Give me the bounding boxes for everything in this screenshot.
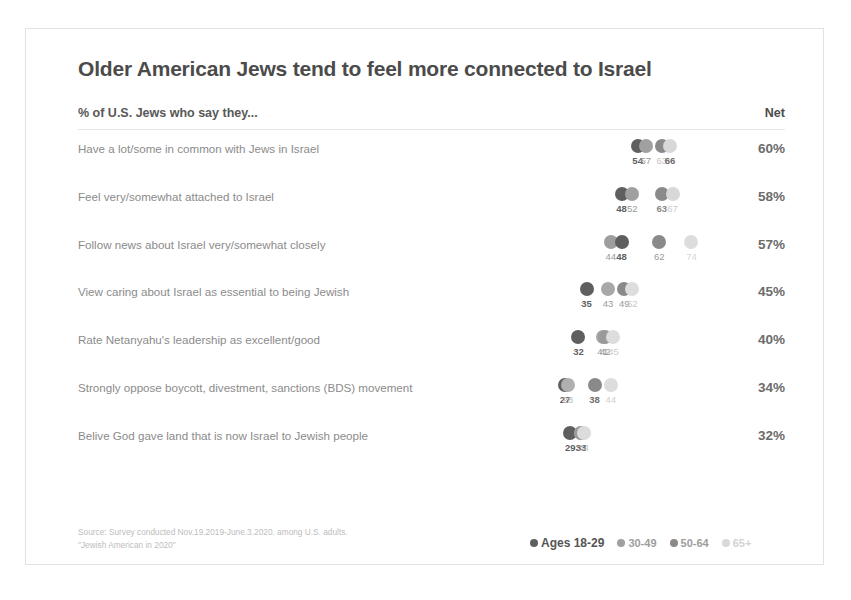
page-title: Older American Jews tend to feel more co… bbox=[78, 51, 785, 81]
row-plot: 32414245 bbox=[530, 322, 713, 370]
row-label: Have a lot/some in common with Jews in I… bbox=[78, 142, 319, 155]
data-point-30-49 bbox=[639, 139, 653, 153]
data-point-label: 35 bbox=[581, 298, 592, 309]
data-point-label: 74 bbox=[686, 251, 697, 262]
data-point-50-64 bbox=[652, 235, 666, 249]
chart-inner: Older American Jews tend to feel more co… bbox=[78, 51, 785, 554]
row-plot: 27283844 bbox=[530, 370, 713, 418]
chart-row: Rate Netanyahu's leadership as excellent… bbox=[78, 322, 785, 370]
subheader-label: % of U.S. Jews who say they... bbox=[78, 106, 258, 120]
row-label: View caring about Israel as essential to… bbox=[78, 285, 349, 298]
row-plot: 29333334 bbox=[530, 418, 713, 466]
data-point-label: 32 bbox=[573, 346, 584, 357]
source-note-line1: Source: Survey conducted Nov.19.2019-Jun… bbox=[78, 526, 348, 539]
row-label: Feel very/somewhat attached to Israel bbox=[78, 190, 274, 203]
data-point-30-49 bbox=[625, 187, 639, 201]
data-point-label: 38 bbox=[589, 394, 600, 405]
legend-item[interactable]: 65+ bbox=[722, 537, 752, 549]
chart-row: View caring about Israel as essential to… bbox=[78, 274, 785, 322]
row-label: Rate Netanyahu's leadership as excellent… bbox=[78, 333, 320, 346]
row-plot: 48526367 bbox=[530, 179, 713, 227]
subheader-row: % of U.S. Jews who say they... Net bbox=[78, 106, 785, 129]
legend-swatch-icon bbox=[617, 539, 625, 547]
row-net-value: 32% bbox=[729, 428, 785, 443]
row-label: Belive God gave land that is now Israel … bbox=[78, 429, 368, 442]
net-column-header: Net bbox=[729, 106, 785, 120]
chart-row: Feel very/somewhat attached to Israel485… bbox=[78, 179, 785, 227]
data-point-label: 66 bbox=[665, 155, 676, 166]
legend-item[interactable]: 50-64 bbox=[670, 537, 709, 549]
data-point-label: 48 bbox=[616, 203, 627, 214]
chart-legend: Ages 18-2930-4950-6465+ bbox=[530, 536, 751, 550]
data-point-label: 28 bbox=[562, 394, 573, 405]
data-point-label: 57 bbox=[640, 155, 651, 166]
chart-rows: Have a lot/some in common with Jews in I… bbox=[78, 131, 785, 466]
data-point-label: 34 bbox=[579, 442, 590, 453]
row-plot: 54576366 bbox=[530, 131, 713, 179]
source-note-line2: "Jewish American in 2020" bbox=[78, 539, 348, 552]
data-point-label: 29 bbox=[565, 442, 576, 453]
data-point-label: 44 bbox=[605, 251, 616, 262]
row-net-value: 40% bbox=[729, 332, 785, 347]
row-label: Strongly oppose boycott, divestment, san… bbox=[78, 381, 412, 394]
data-point-65- bbox=[684, 235, 698, 249]
legend-item[interactable]: Ages 18-29 bbox=[530, 536, 604, 550]
row-label: Follow news about Israel very/somewhat c… bbox=[78, 238, 325, 251]
data-point-50-64 bbox=[588, 378, 602, 392]
data-point-65- bbox=[663, 139, 677, 153]
chart-card: Older American Jews tend to feel more co… bbox=[25, 28, 824, 565]
source-note: Source: Survey conducted Nov.19.2019-Jun… bbox=[78, 526, 348, 552]
data-point-65- bbox=[666, 187, 680, 201]
row-plot: 44486274 bbox=[530, 227, 713, 275]
row-net-value: 34% bbox=[729, 380, 785, 395]
data-point-label: 62 bbox=[654, 251, 665, 262]
data-point-30-49 bbox=[561, 378, 575, 392]
data-point-65- bbox=[577, 426, 591, 440]
legend-label: 50-64 bbox=[681, 537, 709, 549]
data-point-label: 44 bbox=[605, 394, 616, 405]
data-point-65- bbox=[604, 378, 618, 392]
data-point-label: 43 bbox=[603, 298, 614, 309]
legend-swatch-icon bbox=[670, 539, 678, 547]
data-point-30-49 bbox=[601, 282, 615, 296]
data-point-label: 45 bbox=[608, 346, 619, 357]
data-point-65- bbox=[606, 330, 620, 344]
legend-label: 65+ bbox=[733, 537, 752, 549]
row-net-value: 58% bbox=[729, 189, 785, 204]
data-point-ages-18-29 bbox=[580, 282, 594, 296]
chart-row: Have a lot/some in common with Jews in I… bbox=[78, 131, 785, 179]
row-plot: 35434952 bbox=[530, 274, 713, 322]
data-point-label: 63 bbox=[657, 203, 668, 214]
row-net-value: 60% bbox=[729, 141, 785, 156]
chart-row: Strongly oppose boycott, divestment, san… bbox=[78, 370, 785, 418]
data-point-label: 67 bbox=[667, 203, 678, 214]
legend-label: 30-49 bbox=[628, 537, 656, 549]
legend-label: Ages 18-29 bbox=[541, 536, 604, 550]
legend-item[interactable]: 30-49 bbox=[617, 537, 656, 549]
legend-swatch-icon bbox=[530, 539, 538, 547]
row-net-value: 57% bbox=[729, 237, 785, 252]
row-net-value: 45% bbox=[729, 284, 785, 299]
data-point-label: 48 bbox=[616, 251, 627, 262]
data-point-label: 52 bbox=[627, 298, 638, 309]
data-point-30-49 bbox=[615, 235, 629, 249]
chart-row: Follow news about Israel very/somewhat c… bbox=[78, 227, 785, 275]
data-point-label: 52 bbox=[627, 203, 638, 214]
legend-swatch-icon bbox=[722, 539, 730, 547]
data-point-65- bbox=[625, 282, 639, 296]
data-point-ages-18-29 bbox=[571, 330, 585, 344]
header-divider bbox=[78, 129, 785, 130]
chart-row: Belive God gave land that is now Israel … bbox=[78, 418, 785, 466]
